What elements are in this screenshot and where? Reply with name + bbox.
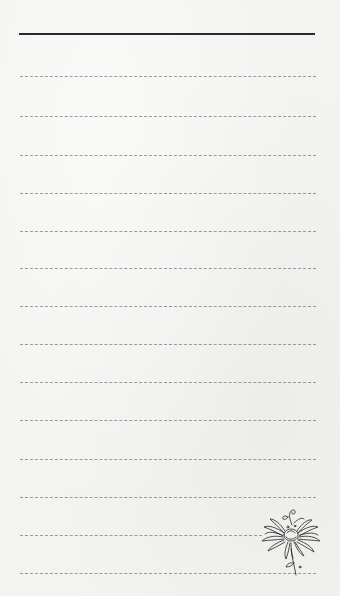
ruled-line	[20, 193, 316, 194]
ruled-line	[20, 306, 316, 307]
ruled-line	[20, 155, 316, 156]
chrysanthemum-flower-icon	[258, 505, 324, 577]
ruled-line	[20, 459, 316, 460]
header-line	[19, 33, 315, 35]
ruled-line	[20, 76, 316, 77]
ruled-line	[20, 497, 316, 498]
ruled-line	[20, 116, 316, 117]
ruled-line	[20, 268, 316, 269]
lined-paper	[0, 0, 340, 596]
ruled-line	[20, 231, 316, 232]
ruled-line	[20, 535, 262, 536]
ruled-line	[20, 344, 316, 345]
ruled-line	[20, 382, 316, 383]
ruled-line	[20, 420, 316, 421]
